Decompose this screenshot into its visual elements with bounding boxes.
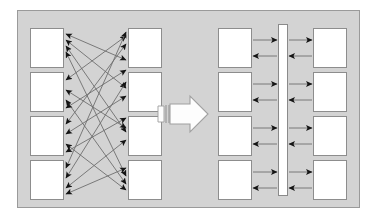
diagram-screenshot: Point-to-point integration versus messag… — [0, 0, 376, 220]
node-box-L-B3[interactable] — [128, 116, 162, 156]
node-box-L-B4[interactable] — [128, 160, 162, 200]
message-bus[interactable] — [278, 24, 288, 196]
node-box-R-B4[interactable] — [313, 160, 347, 200]
node-box-L-A3[interactable] — [30, 116, 64, 156]
node-box-L-B2[interactable] — [128, 72, 162, 112]
node-box-R-A2[interactable] — [218, 72, 252, 112]
node-box-R-B1[interactable] — [313, 28, 347, 68]
diagram-panel — [17, 10, 360, 208]
node-box-L-A1[interactable] — [30, 28, 64, 68]
node-box-R-B2[interactable] — [313, 72, 347, 112]
node-box-R-A1[interactable] — [218, 28, 252, 68]
node-box-L-B1[interactable] — [128, 28, 162, 68]
node-box-R-B3[interactable] — [313, 116, 347, 156]
node-box-R-A4[interactable] — [218, 160, 252, 200]
node-box-L-A4[interactable] — [30, 160, 64, 200]
node-box-L-A2[interactable] — [30, 72, 64, 112]
node-box-R-A3[interactable] — [218, 116, 252, 156]
